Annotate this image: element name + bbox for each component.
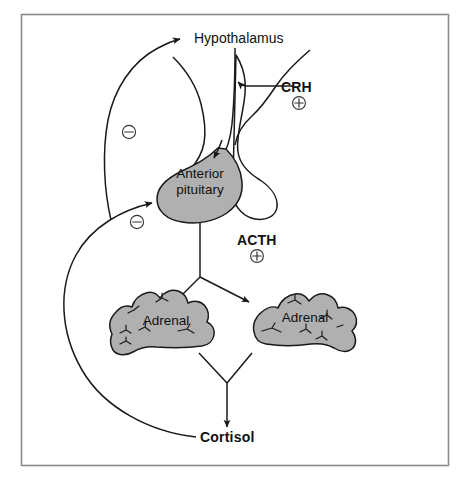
crh-plus-sign xyxy=(293,97,306,110)
hypothalamus-label: Hypothalamus xyxy=(194,30,284,46)
hpa-axis-figure: Hypothalamus Anterior pituitary CRH ACTH… xyxy=(0,0,464,487)
hypothalamus-feedback-minus-sign xyxy=(122,125,135,138)
acth-label: ACTH xyxy=(237,232,277,248)
crh-label: CRH xyxy=(281,79,312,95)
adrenal-right-label: Adrenal xyxy=(282,310,329,325)
hpa-axis-diagram: Hypothalamus Anterior pituitary CRH ACTH… xyxy=(0,0,464,487)
cortisol-label: Cortisol xyxy=(200,429,255,445)
anterior-pituitary-label-line1: Anterior xyxy=(176,166,224,181)
acth-plus-sign xyxy=(251,250,264,263)
anterior-pituitary-label-line2: pituitary xyxy=(176,182,224,197)
pituitary-feedback-minus-sign xyxy=(130,215,143,228)
adrenal-left-label: Adrenal xyxy=(143,313,190,328)
